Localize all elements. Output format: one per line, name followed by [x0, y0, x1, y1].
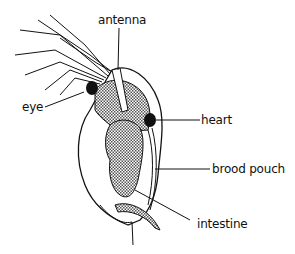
eye-leader	[45, 92, 84, 107]
label-intestine: intestine	[197, 218, 248, 230]
heart	[144, 113, 156, 127]
label-heart: heart	[201, 114, 232, 126]
daphnia-diagram	[0, 0, 295, 254]
antenna-leader	[118, 28, 119, 70]
label-eye: eye	[22, 101, 43, 113]
eye	[86, 81, 98, 95]
label-antenna: antenna	[98, 14, 146, 26]
antenna-bristles	[15, 15, 112, 95]
label-brood-pouch: brood pouch	[212, 163, 285, 175]
